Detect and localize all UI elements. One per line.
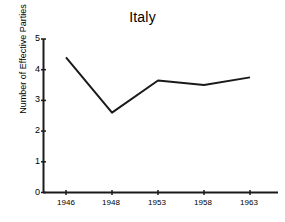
plot-area (0, 0, 285, 222)
chart-container: Italy Number of Effective Parties 0 1 2 … (0, 0, 285, 222)
data-series-line (66, 57, 250, 112)
